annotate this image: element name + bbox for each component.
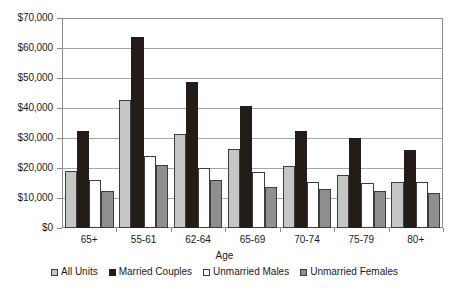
y-axis-tick-label: $30,000: [18, 133, 53, 143]
x-axis-title: Age: [0, 250, 449, 261]
bar: [144, 156, 156, 228]
bar: [77, 131, 89, 228]
bar: [210, 180, 222, 228]
bar-group: [171, 18, 225, 228]
y-axis-tick-label: $10,000: [18, 193, 53, 203]
bar: [228, 149, 240, 229]
y-axis-tick-label: $40,000: [18, 103, 53, 113]
x-axis-tick-label: 70-74: [280, 234, 334, 246]
bar: [252, 172, 264, 228]
bar: [65, 171, 77, 228]
x-axis-tick-mark: [225, 228, 226, 232]
bar: [319, 189, 331, 228]
bar-group: [334, 18, 388, 228]
bars-layer: [62, 18, 443, 228]
x-axis-tick-mark: [116, 228, 117, 232]
legend-label: Married Couples: [119, 266, 192, 278]
y-axis-tick-label: $70,000: [18, 13, 53, 23]
x-axis-tick-mark: [280, 228, 281, 232]
legend-swatch-icon: [300, 269, 307, 276]
bar: [89, 180, 101, 228]
legend-swatch-icon: [109, 269, 116, 276]
bar-group: [116, 18, 170, 228]
y-axis-tick-label: $0: [42, 223, 53, 233]
x-axis-tick-label: 75-79: [334, 234, 388, 246]
legend-item: Unmarried Males: [203, 266, 289, 278]
y-axis-tick-label: $60,000: [18, 43, 53, 53]
y-axis: $0$10,000$20,000$30,000$40,000$50,000$60…: [0, 0, 62, 246]
x-axis-tick-label: 80+: [389, 234, 443, 246]
bar: [337, 175, 349, 228]
bar: [295, 131, 307, 228]
legend-label: Unmarried Males: [213, 266, 289, 278]
x-axis-tick-mark: [171, 228, 172, 232]
bar: [404, 150, 416, 228]
bar: [119, 100, 131, 228]
bar: [101, 191, 113, 228]
bar-chart: $0$10,000$20,000$30,000$40,000$50,000$60…: [0, 0, 449, 292]
x-axis-tick-mark: [443, 228, 444, 232]
bar: [265, 187, 277, 228]
bar: [156, 165, 168, 228]
bar: [198, 168, 210, 228]
bar: [131, 37, 143, 228]
bar: [416, 182, 428, 229]
legend-item: All Units: [51, 266, 98, 278]
bar-group: [389, 18, 443, 228]
x-axis-tick-mark: [334, 228, 335, 232]
legend-label: All Units: [61, 266, 98, 278]
bar: [307, 182, 319, 228]
y-axis-tick-label: $50,000: [18, 73, 53, 83]
bar-group: [280, 18, 334, 228]
bar: [361, 183, 373, 228]
x-axis-tick-label: 65-69: [225, 234, 279, 246]
y-axis-tick-label: $20,000: [18, 163, 53, 173]
bar-group: [225, 18, 279, 228]
bar: [174, 134, 186, 228]
legend-label: Unmarried Females: [310, 266, 398, 278]
legend-swatch-icon: [51, 269, 58, 276]
x-axis-tick-label: 65+: [62, 234, 116, 246]
bar: [391, 182, 403, 228]
legend-item: Unmarried Females: [300, 266, 398, 278]
bar: [428, 193, 440, 228]
x-axis-tick-label: 62-64: [171, 234, 225, 246]
x-axis-tick-label: 55-61: [116, 234, 170, 246]
bar: [186, 82, 198, 228]
bar-group: [62, 18, 116, 228]
x-axis-tick-mark: [389, 228, 390, 232]
bar: [283, 166, 295, 228]
chart-legend: All UnitsMarried CouplesUnmarried MalesU…: [0, 266, 449, 278]
legend-item: Married Couples: [109, 266, 192, 278]
bar: [240, 106, 252, 228]
bar: [349, 138, 361, 228]
legend-swatch-icon: [203, 269, 210, 276]
bar: [374, 191, 386, 229]
